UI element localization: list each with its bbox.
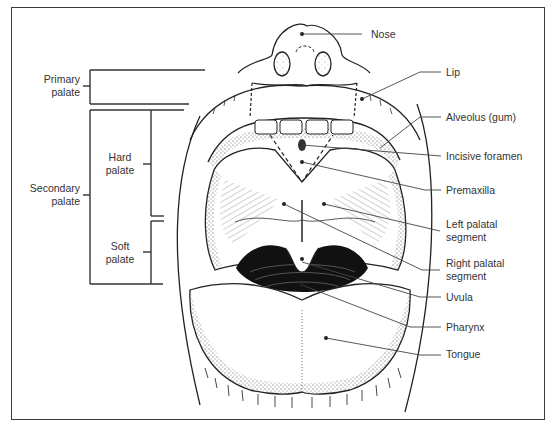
label-alveolus: Alveolus (gum) [446,111,516,124]
nose-shape [238,24,370,73]
primary-palate-dashed [250,83,357,118]
nostril-right [315,52,331,76]
tongue-shape [190,284,410,394]
label-lip: Lip [446,66,460,79]
label-nose: Nose [371,28,396,41]
label-incisive-foramen: Incisive foramen [446,150,522,163]
nostril-left [274,52,290,76]
primary-palate-bracket [83,70,205,104]
hard-palate-bracket [143,110,164,216]
nose-base [252,83,357,86]
label-pharynx: Pharynx [446,321,485,334]
label-uvula: Uvula [446,291,473,304]
label-tongue: Tongue [446,348,480,361]
label-premaxilla: Premaxilla [446,184,495,197]
face-contour-left [177,116,200,405]
palate-illustration [0,0,557,428]
face-contour-right [405,104,432,412]
label-secondary-palate: Secondary palate [20,182,80,208]
label-hard-palate: Hard palate [100,151,140,177]
label-right-palatal-segment: Right palatal segment [446,257,504,283]
label-left-palatal-segment: Left palatal segment [446,218,497,244]
label-soft-palate: Soft palate [100,240,140,266]
soft-palate-bracket [143,221,164,284]
label-primary-palate: Primary palate [30,73,80,99]
